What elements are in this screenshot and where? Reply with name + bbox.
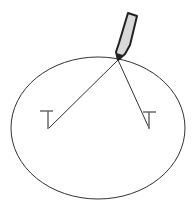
string-left [49, 60, 118, 128]
string-right [118, 60, 149, 128]
ellipse-diagram [0, 0, 195, 208]
pencil-icon [116, 13, 137, 60]
ellipse-curve [11, 57, 185, 199]
diagram-canvas [0, 0, 195, 208]
pin-icon [143, 112, 156, 129]
